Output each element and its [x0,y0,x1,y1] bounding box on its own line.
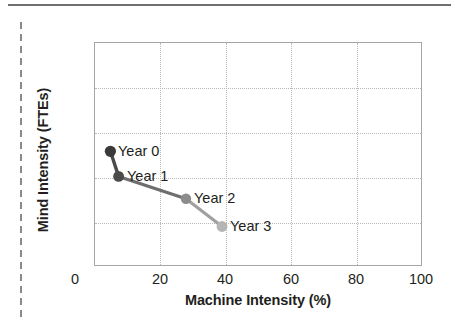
data-label-year0: Year 0 [118,144,159,159]
data-label-year1: Year 1 [127,169,168,184]
data-point-year3 [217,221,228,232]
data-point-year0 [105,146,116,157]
chart-figure: Mind Intensity (FTEs) Machine Intensity … [0,0,455,330]
data-label-year3: Year 3 [230,219,271,234]
data-point-year1 [113,171,124,182]
series-line-segments [110,151,222,226]
series-layer [0,0,455,330]
data-label-year2: Year 2 [194,191,235,206]
data-point-year2 [181,194,191,204]
